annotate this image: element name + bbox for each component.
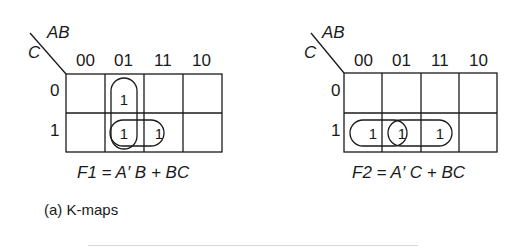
kmap1-row-header: 1 [50, 122, 59, 139]
kmap2-col-header: 10 [469, 52, 488, 69]
kmap1-cell: 1 [149, 126, 169, 141]
kmap1-col-var: AB [47, 24, 70, 41]
kmap1-col-header: 01 [114, 52, 133, 69]
kmap2-equation: F2 = A′ C + BC [352, 164, 465, 181]
kmap2-cell: 1 [392, 126, 412, 141]
kmap1-cell: 1 [114, 126, 134, 141]
kmap1-equation: F1 = A′ B + BC [77, 164, 189, 181]
kmap1-cell: 1 [114, 92, 134, 107]
kmap1-col-header: 00 [76, 52, 95, 69]
kmap2-row-header: 0 [331, 82, 340, 99]
kmap1-row-var: C [28, 44, 40, 61]
kmap2-row-header: 1 [331, 122, 340, 139]
figure-caption: (a) K-maps [44, 202, 118, 217]
divider-rule [88, 245, 418, 246]
kmap2-cell: 1 [363, 126, 383, 141]
kmap2-col-header: 11 [431, 52, 449, 69]
kmap2-col-header: 00 [354, 52, 373, 69]
kmap2-cell: 1 [430, 126, 450, 141]
kmap1-row-header: 0 [50, 82, 59, 99]
kmap1-col-header: 11 [154, 52, 172, 69]
kmap2-col-header: 01 [392, 52, 411, 69]
kmap1-col-header: 10 [192, 52, 211, 69]
kmap2-row-var: C [304, 44, 316, 61]
kmap2-col-var: AB [322, 24, 345, 41]
